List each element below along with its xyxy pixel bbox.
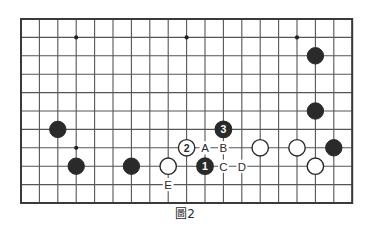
black-stone-left-1[interactable] xyxy=(50,121,66,137)
letter-marker-text: B xyxy=(220,142,228,154)
white-stone-right-3[interactable] xyxy=(307,158,323,174)
go-board-canvas[interactable]: ABCDE 123 xyxy=(0,0,370,210)
go-diagram-figure: ABCDE 123 圖2 xyxy=(0,0,370,238)
black-stone-upper-right-1[interactable] xyxy=(307,48,323,64)
move-number-text: 1 xyxy=(202,160,208,172)
go-board[interactable]: ABCDE 123 xyxy=(0,0,370,210)
point-label-d[interactable]: D xyxy=(236,160,247,173)
white-stone-right-2[interactable] xyxy=(289,140,305,156)
white-stone-center-left[interactable] xyxy=(160,158,176,174)
move-1-black[interactable]: 1 xyxy=(197,158,213,174)
point-label-e[interactable]: E xyxy=(163,178,174,191)
point-label-a[interactable]: A xyxy=(200,141,211,154)
star-point xyxy=(295,35,299,39)
black-stone-left-2[interactable] xyxy=(68,158,84,174)
letter-marker-text: E xyxy=(164,179,172,191)
star-point xyxy=(185,35,189,39)
star-point xyxy=(74,35,78,39)
board-grid-lines xyxy=(21,19,352,203)
point-label-b[interactable]: B xyxy=(218,141,229,154)
black-stone-upper-right-2[interactable] xyxy=(307,103,323,119)
letter-marker-text: A xyxy=(201,142,209,154)
black-stone-right-edge[interactable] xyxy=(326,140,342,156)
letter-marker-text: C xyxy=(219,161,227,173)
figure-caption: 圖2 xyxy=(0,206,370,222)
move-3-black[interactable]: 3 xyxy=(215,121,231,137)
move-number-text: 2 xyxy=(184,142,190,154)
star-point xyxy=(74,146,78,150)
white-stone-right-1[interactable] xyxy=(252,140,268,156)
move-2-white[interactable]: 2 xyxy=(178,140,194,156)
black-stone-left-3[interactable] xyxy=(123,158,139,174)
letter-marker-text: D xyxy=(238,161,246,173)
figure-caption-text: 圖2 xyxy=(175,207,196,221)
point-label-c[interactable]: C xyxy=(218,160,229,173)
move-number-text: 3 xyxy=(220,123,226,135)
